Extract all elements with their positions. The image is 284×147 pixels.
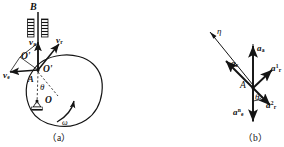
label-O: O: [45, 96, 52, 106]
label-theta-a: θ: [40, 83, 44, 92]
caption-panel-a: （a）: [47, 130, 71, 144]
label-a-r-two: a2r: [266, 101, 276, 111]
label-a-absolute: aa: [257, 44, 264, 54]
label-a-r-one-sub: r: [279, 67, 281, 73]
label-a-e-normal-sub: e: [241, 111, 243, 117]
point-marker-A-b: [252, 87, 255, 90]
parallelogram-edge-left: [10, 57, 20, 72]
label-a-coriolis-sub: c: [236, 62, 238, 68]
label-omega: ω: [62, 119, 68, 127]
label-v-transport: ve: [3, 71, 10, 81]
panel-a-graphics: [10, 12, 102, 126]
label-eta: η: [217, 27, 221, 36]
vector-v-transport: [10, 70, 38, 72]
label-v-absolute: va: [29, 38, 36, 48]
label-a-r-two-sub: r: [274, 104, 276, 110]
label-theta-b: θ: [255, 93, 259, 102]
label-a-coriolis-base: a: [231, 58, 236, 68]
label-a-e-normal-base: a: [233, 107, 238, 117]
vector-a-r-one: [253, 70, 272, 88]
label-A: A: [28, 75, 34, 84]
label-O-prime-upper: O': [21, 52, 31, 62]
label-v-absolute-sub: a: [33, 41, 36, 47]
label-a-e-normal: ane: [233, 108, 243, 118]
label-O-prime: O': [43, 65, 53, 75]
dashed-line-A-to-O: [37, 72, 38, 104]
support-hatch-right: [42, 19, 49, 37]
label-a-absolute-sub: a: [262, 47, 265, 53]
label-v-transport-sub: e: [7, 74, 9, 80]
label-a-r-one: a1r: [271, 64, 281, 74]
support-hatch-left: [28, 19, 35, 37]
point-marker-A: [36, 68, 39, 71]
label-A-b: A: [240, 81, 246, 91]
label-a-coriolis: ac: [231, 59, 238, 69]
label-B: B: [30, 2, 37, 12]
ground-hatch-O: [32, 107, 43, 110]
label-a-absolute-base: a: [257, 43, 262, 53]
label-a-r-one-base: a: [271, 63, 276, 73]
label-v-relative-sub: r: [60, 39, 62, 45]
label-v-relative: vr: [56, 36, 63, 46]
axis-eta-arrowhead: [210, 32, 217, 39]
label-a-r-two-base: a: [266, 100, 271, 110]
caption-panel-b: （b）: [243, 130, 268, 144]
figure-root: B va vr ve O' O' A θ O ω （a） η aa ac a1r…: [0, 0, 284, 147]
point-marker-O: [36, 100, 39, 103]
